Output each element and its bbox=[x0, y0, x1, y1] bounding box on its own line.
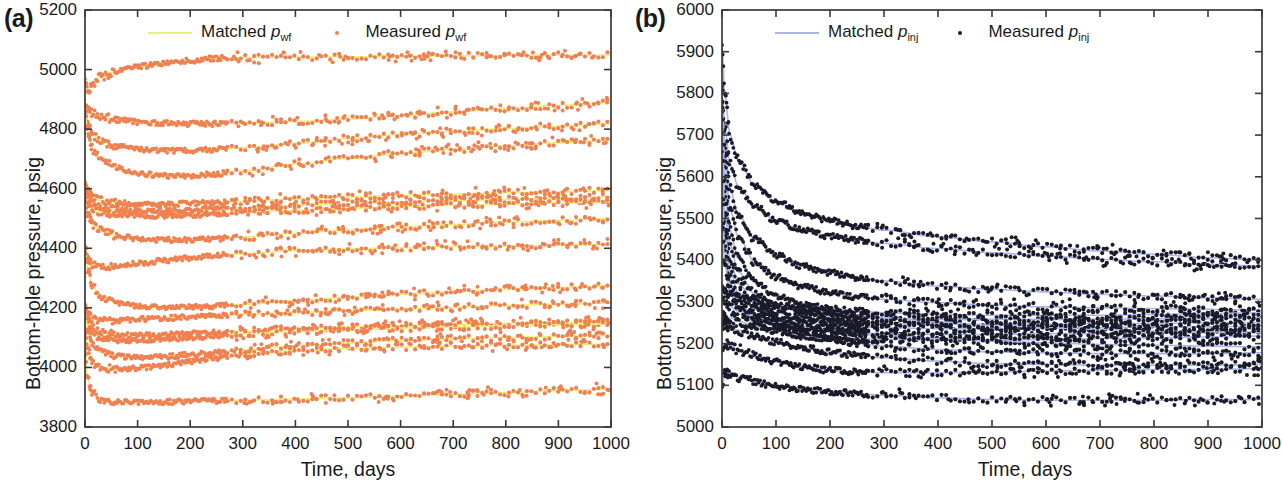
legend-label: Measured pinj bbox=[988, 22, 1089, 43]
legend-label: Matched pwf bbox=[201, 22, 291, 43]
measured-points bbox=[83, 237, 609, 271]
legend-item-measured: Measured pinj bbox=[958, 22, 1089, 43]
legend-item-matched: Matched pwf bbox=[148, 22, 291, 43]
matched-line bbox=[722, 102, 1262, 311]
legend-label: Measured pwf bbox=[365, 22, 466, 43]
legend-dot-swatch bbox=[958, 31, 962, 35]
measured-points bbox=[720, 84, 1260, 272]
legend-label: Matched pinj bbox=[828, 22, 918, 43]
panel-a-plot-area bbox=[0, 0, 641, 447]
measured-points bbox=[720, 101, 1260, 318]
measured-points bbox=[720, 88, 1262, 308]
measured-points bbox=[83, 96, 609, 128]
matched-line bbox=[722, 93, 1262, 299]
legend-dot-swatch bbox=[335, 31, 339, 35]
figure-container: (a) Bottom-hole pressure, psig Time, day… bbox=[0, 0, 1282, 493]
legend-item-matched: Matched pinj bbox=[775, 22, 918, 43]
measured-points bbox=[720, 338, 1264, 379]
panel-a-legend: Matched pwfMeasured pwf bbox=[148, 22, 466, 43]
legend-item-measured: Measured pwf bbox=[335, 22, 466, 43]
matched-line bbox=[85, 309, 611, 340]
panel-a-x-axis-label: Time, days bbox=[238, 458, 458, 481]
panel-b: (b) Bottom-hole pressure, psig Time, day… bbox=[640, 0, 1282, 493]
panel-b-plot-area bbox=[640, 0, 1282, 447]
matched-line bbox=[722, 135, 1262, 319]
panel-b-legend: Matched pinjMeasured pinj bbox=[775, 22, 1089, 43]
legend-line-swatch bbox=[775, 32, 819, 34]
panel-a: (a) Bottom-hole pressure, psig Time, day… bbox=[0, 0, 640, 493]
legend-line-swatch bbox=[148, 32, 192, 34]
panel-b-x-axis-label: Time, days bbox=[915, 458, 1135, 481]
